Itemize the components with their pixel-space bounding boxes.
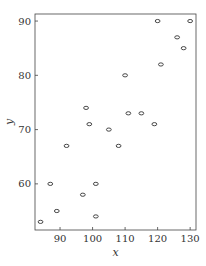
x-tick-label: 120 bbox=[148, 233, 167, 244]
data-point bbox=[181, 47, 186, 50]
data-point bbox=[87, 123, 92, 126]
data-point bbox=[106, 128, 111, 131]
x-tick-label: 110 bbox=[116, 233, 135, 244]
scatter-chart: 90100110120130 60708090 x y bbox=[0, 0, 206, 266]
data-points bbox=[38, 19, 192, 223]
y-tick-label: 60 bbox=[18, 178, 31, 189]
data-point bbox=[116, 144, 121, 147]
data-point bbox=[38, 220, 43, 223]
data-point bbox=[152, 123, 157, 126]
data-point bbox=[158, 63, 163, 66]
x-tick-label: 100 bbox=[83, 233, 102, 244]
y-tick-label: 80 bbox=[18, 70, 31, 81]
data-point bbox=[139, 112, 144, 115]
data-point bbox=[64, 144, 69, 147]
data-point bbox=[155, 19, 160, 22]
x-tick-label: 90 bbox=[54, 233, 67, 244]
x-axis-ticks: 90100110120130 bbox=[54, 227, 200, 244]
data-point bbox=[93, 215, 98, 218]
plot-frame bbox=[35, 14, 196, 230]
data-point bbox=[123, 74, 128, 77]
x-axis-label: x bbox=[112, 246, 119, 259]
data-point bbox=[175, 36, 180, 39]
data-point bbox=[80, 193, 85, 196]
data-point bbox=[126, 112, 131, 115]
data-point bbox=[84, 106, 89, 109]
data-point bbox=[48, 182, 53, 185]
x-tick-label: 130 bbox=[181, 233, 200, 244]
data-point bbox=[93, 182, 98, 185]
y-tick-label: 90 bbox=[18, 16, 31, 27]
y-tick-label: 70 bbox=[18, 124, 31, 135]
y-axis-label: y bbox=[3, 118, 16, 126]
data-point bbox=[54, 209, 59, 212]
data-point bbox=[188, 19, 193, 22]
